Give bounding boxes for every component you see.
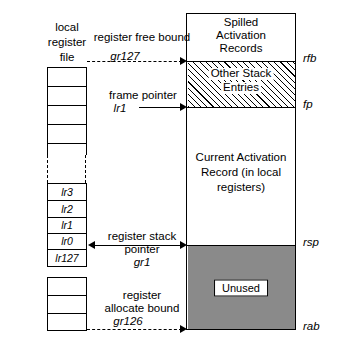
register-file-gap-left-dashed-edge xyxy=(47,155,48,183)
register-cell-lr1: lr1 xyxy=(61,219,73,231)
register-file-gap-right-dashed-edge xyxy=(85,155,86,183)
register-free-bound-arrowhead-icon xyxy=(180,57,187,65)
frame-pointer-arrowhead-icon xyxy=(180,103,187,111)
register-free-bound-dashed-line xyxy=(87,61,182,62)
memory-divider-rfb xyxy=(186,61,296,62)
boundary-label-rfb: rfb xyxy=(303,53,316,65)
register-file-upper-segment xyxy=(47,67,87,155)
register-file-rule xyxy=(47,67,87,68)
other-stack-entries-line-1: Other Stack xyxy=(209,68,274,80)
register-file-rule xyxy=(47,266,87,267)
register-cell-lr2: lr2 xyxy=(61,203,73,215)
register-file-rule xyxy=(47,143,87,144)
register-file-rule xyxy=(47,124,87,125)
register-cell-lr0: lr0 xyxy=(61,235,73,247)
register-allocate-bound-dashed-line xyxy=(87,329,182,330)
frame-pointer-line xyxy=(139,107,182,108)
register-file-rule xyxy=(47,249,87,250)
other-stack-entries-line-2: Entries xyxy=(221,82,261,94)
register-cell-lr127: lr127 xyxy=(55,252,78,264)
register-file-rule xyxy=(47,86,87,87)
current-activation-record-line-2: Record (in local xyxy=(201,167,281,179)
register-stack-pointer-label-line-1: register stack xyxy=(108,231,176,243)
register-stack-pointer-arrowhead-left-icon xyxy=(88,241,95,249)
register-file-rule xyxy=(47,105,87,106)
register-file-rule xyxy=(47,233,87,234)
register-file-rule xyxy=(47,183,87,184)
register-file-rule xyxy=(47,200,87,201)
register-file-rule xyxy=(47,313,87,314)
register-allocate-bound-label-line-1: register xyxy=(123,290,161,302)
boundary-label-fp: fp xyxy=(303,99,313,111)
frame-pointer-label: frame pointer xyxy=(109,90,177,102)
register-stack-diagram: local register file lr3 lr2 lr1 lr0 lr12… xyxy=(0,0,339,349)
spilled-activation-records-line-2: Activation xyxy=(216,30,266,42)
register-allocate-bound-register: gr126 xyxy=(113,316,142,328)
local-register-file-heading-line-2: register xyxy=(48,37,86,49)
register-file-rule xyxy=(47,330,87,331)
register-free-bound-label: register free bound xyxy=(94,32,191,44)
local-register-file-heading-line-1: local xyxy=(55,22,79,34)
memory-divider-fp xyxy=(186,107,296,108)
boundary-label-rab: rab xyxy=(303,321,320,333)
register-file-rule xyxy=(47,295,87,296)
memory-divider-rsp xyxy=(186,245,296,246)
current-activation-record-line-1: Current Activation xyxy=(196,152,287,164)
register-cell-lr3: lr3 xyxy=(61,186,73,198)
register-file-rule xyxy=(47,217,87,218)
register-stack-pointer-line xyxy=(95,245,182,246)
unused-label: Unused xyxy=(214,280,268,297)
register-allocate-bound-arrowhead-icon xyxy=(180,325,187,333)
local-register-file-heading-line-3: file xyxy=(60,52,75,64)
register-file-rule xyxy=(47,277,87,278)
register-allocate-bound-label-line-2: allocate bound xyxy=(105,303,180,315)
spilled-activation-records-line-1: Spilled xyxy=(224,17,259,29)
frame-pointer-register: lr1 xyxy=(114,103,127,115)
register-stack-pointer-register: gr1 xyxy=(134,257,151,269)
current-activation-record-line-3: registers) xyxy=(217,182,265,194)
boundary-label-rsp: rsp xyxy=(303,237,319,249)
register-stack-pointer-arrowhead-right-icon xyxy=(180,241,187,249)
spilled-activation-records-line-3: Records xyxy=(220,43,263,55)
register-file-lower-segment xyxy=(47,277,87,331)
